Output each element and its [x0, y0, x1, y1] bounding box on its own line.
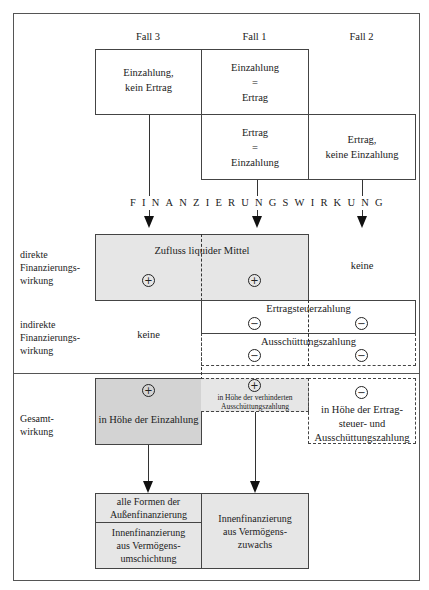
text-line: Ausschüttungszahlung — [308, 431, 416, 445]
box-text: Außenfinanzierung — [110, 508, 187, 521]
total-fall1-text: in Höhe der verhinderten Ausschüttungsza… — [201, 393, 309, 411]
text-line: steuer- und — [308, 417, 416, 431]
arrow-down-icon — [252, 216, 262, 228]
box-text: Ertrag — [242, 90, 268, 105]
label-line: wirkung — [20, 425, 95, 438]
arrow-down-icon — [144, 216, 154, 228]
box-text: Innenfinanzierung — [112, 526, 185, 539]
box-fall1-einzahlung-gleich-ertrag: Einzahlung = Ertrag — [201, 49, 309, 115]
connector-line-fall1 — [257, 180, 258, 196]
minus-circle-icon: − — [355, 386, 368, 399]
total-fall2-text: in Höhe der Ertrag- steuer- und Ausschüt… — [308, 403, 416, 445]
arrow-down-icon — [143, 481, 153, 493]
text-line: in Höhe der verhinderten — [201, 393, 309, 402]
box-text: alle Formen der — [117, 495, 180, 508]
text-line: in Höhe der Ertrag- — [308, 403, 416, 417]
label-line: Finanzierungs- — [20, 261, 95, 274]
connector-line-to-external — [148, 445, 149, 481]
box-text: Einzahlung — [231, 155, 279, 170]
column-header-fall3: Fall 3 — [95, 30, 201, 44]
box-text: kein Ertrag — [125, 80, 172, 95]
label-line: Finanzierungs- — [20, 331, 95, 344]
column-header-fall2: Fall 2 — [308, 30, 415, 44]
ausschuettung-title: Ausschüttungszahlung — [201, 335, 416, 349]
zufluss-title: Zufluss liquider Mittel — [95, 244, 309, 258]
plus-circle-icon: + — [248, 274, 261, 287]
box-text: Innenfinanzierung — [218, 512, 291, 525]
box-text: Einzahlung — [231, 60, 279, 75]
box-text: umschichtung — [120, 552, 176, 565]
label-line: wirkung — [20, 274, 95, 287]
row-label-total: Gesamt- wirkung — [20, 412, 95, 438]
box-fall2-ertrag-keine-einzahlung: Ertrag, keine Einzahlung — [308, 114, 416, 180]
row-label-indirect: indirekte Finanzierungs- wirkung — [20, 318, 95, 357]
box-text: aus Vermögens- — [223, 525, 287, 538]
minus-circle-icon: − — [248, 317, 261, 330]
box-aussenfinanzierung: alle Formen der Außenfinanzierung — [95, 493, 202, 523]
dashed-divider-fall1-fall2 — [308, 300, 309, 366]
section-divider — [13, 373, 420, 374]
box-text: Einzahlung, — [123, 65, 173, 80]
text-line: Ausschüttungszahlung — [201, 402, 309, 411]
row-label-direct: direkte Finanzierungs- wirkung — [20, 248, 95, 287]
box-innenfinanzierung-umschichtung: Innenfinanzierung aus Vermögens- umschic… — [95, 522, 202, 569]
label-line: wirkung — [20, 344, 95, 357]
label-line: indirekte — [20, 318, 95, 331]
box-text: zuwachs — [238, 538, 272, 551]
plus-circle-icon: + — [142, 274, 155, 287]
label-line: direkte — [20, 248, 95, 261]
arrow-down-icon — [357, 216, 367, 228]
equals-sign: = — [252, 75, 258, 90]
box-text: Ertrag, — [348, 132, 377, 147]
box-text: keine Einzahlung — [325, 147, 398, 162]
direct-fall2-keine: keine — [308, 259, 416, 273]
equals-sign: = — [252, 140, 258, 155]
plus-circle-icon: + — [142, 384, 155, 397]
connector-line-fall2 — [362, 180, 363, 196]
plus-circle-icon: + — [248, 379, 261, 392]
minus-circle-icon: − — [355, 317, 368, 330]
connector-line-fall3 — [149, 115, 150, 196]
indirect-fall3-keine: keine — [95, 328, 202, 342]
column-header-fall1: Fall 1 — [201, 30, 308, 44]
connector-line-to-internal — [255, 412, 256, 481]
box-fall1-ertrag-gleich-einzahlung: Ertrag = Einzahlung — [201, 114, 309, 180]
label-line: Gesamt- — [20, 412, 95, 425]
box-fall3-einzahlung-kein-ertrag: Einzahlung, kein Ertrag — [95, 49, 202, 115]
box-text: aus Vermögens- — [117, 539, 181, 552]
box-text: Ertrag — [242, 125, 268, 140]
banner-finanzierungswirkung: FINANZIERUNGSWIRKUNG — [130, 197, 389, 208]
minus-circle-icon: − — [355, 349, 368, 362]
arrow-down-icon — [250, 481, 260, 493]
total-fall3-text: in Höhe der Einzahlung — [95, 413, 202, 427]
minus-circle-icon: − — [248, 349, 261, 362]
box-innenfinanzierung-zuwachs: Innenfinanzierung aus Vermögens- zuwachs — [201, 493, 309, 569]
